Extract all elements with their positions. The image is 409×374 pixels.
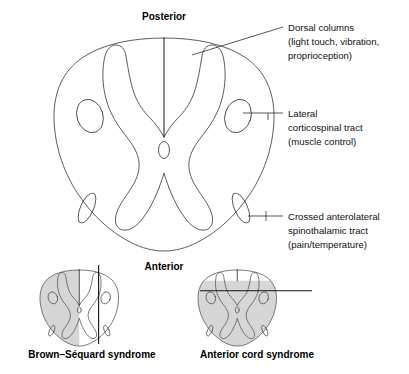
lateral-corticospinal-tract-left bbox=[72, 96, 107, 136]
lateral-corticospinal-line-1: Lateral bbox=[288, 108, 317, 119]
leader-line-dorsal-columns bbox=[192, 27, 283, 55]
dorsal-columns-line-1: Dorsal columns bbox=[288, 22, 354, 33]
brown-sequard-corticospinal-right bbox=[99, 291, 112, 305]
main-cord-cross-section: Posterior Anterior bbox=[54, 11, 274, 272]
anterior-cord-diagram: Anterior cord syndrome bbox=[198, 270, 314, 360]
label-anterior: Anterior bbox=[145, 261, 184, 272]
spinothalamic-line-1: Crossed anterolateral bbox=[288, 211, 380, 222]
brown-sequard-caption: Brown–Séquard syndrome bbox=[28, 349, 156, 360]
annotation-lateral-corticospinal-tract: Lateral corticospinal tract (muscle cont… bbox=[288, 108, 363, 147]
spinothalamic-tract-right bbox=[229, 191, 254, 226]
anterior-cord-caption: Anterior cord syndrome bbox=[200, 349, 314, 360]
annotation-leader-lines bbox=[192, 27, 283, 221]
annotation-spinothalamic-tract: Crossed anterolateral spinothalamic trac… bbox=[288, 211, 380, 250]
dorsal-columns-line-2: (light touch, vibration, bbox=[288, 36, 379, 47]
spinothalamic-line-3: (pain/temperature) bbox=[288, 239, 367, 250]
spinothalamic-line-2: spinothalamic tract bbox=[288, 225, 368, 236]
brown-sequard-shading bbox=[40, 270, 79, 347]
dorsal-columns-line-3: proprioception) bbox=[288, 50, 352, 61]
brown-sequard-diagram: Brown–Séquard syndrome bbox=[28, 265, 156, 360]
central-canal bbox=[159, 142, 170, 159]
spinal-cord-figure: Posterior Anterior Dorsal columns (light… bbox=[0, 0, 409, 374]
lateral-corticospinal-line-3: (muscle control) bbox=[288, 136, 356, 147]
annotation-dorsal-columns: Dorsal columns (light touch, vibration, … bbox=[288, 22, 379, 61]
label-posterior: Posterior bbox=[142, 11, 186, 22]
lateral-corticospinal-tract-right bbox=[220, 96, 255, 136]
lateral-corticospinal-line-2: corticospinal tract bbox=[288, 122, 363, 133]
spinothalamic-tract-left bbox=[75, 191, 100, 226]
